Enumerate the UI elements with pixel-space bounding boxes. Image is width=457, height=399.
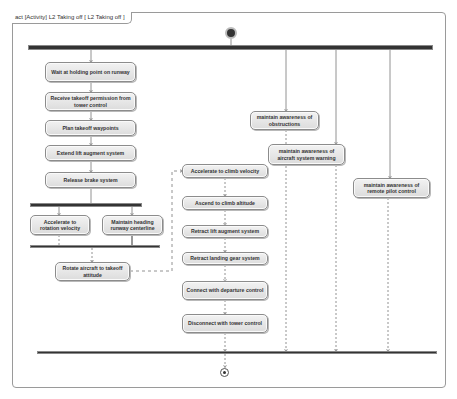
- action-wait-holding[interactable]: Wait at holding point on runway: [45, 62, 136, 82]
- action-accelerate-climb[interactable]: Accelerate to climb velocity: [182, 164, 268, 178]
- action-connect-departure[interactable]: Connect with departure control: [182, 281, 268, 300]
- activity-final-icon[interactable]: [220, 368, 229, 377]
- action-awareness-remote[interactable]: maintain awareness of remote pilot contr…: [353, 178, 430, 198]
- action-retract-lift[interactable]: Retract lift augment system: [182, 225, 268, 238]
- action-awareness-warning[interactable]: maintain awareness of aircraft system wa…: [268, 144, 345, 165]
- action-receive-permission[interactable]: Receive takeoff permission from tower co…: [45, 92, 136, 111]
- action-maintain-heading[interactable]: Maintain heading runway centerline: [102, 215, 163, 235]
- action-accelerate-rotation[interactable]: Accelerate to rotation velocity: [30, 215, 90, 235]
- action-plan-waypoints[interactable]: Plan takeoff waypoints: [45, 120, 136, 136]
- second-fork-bar[interactable]: [30, 203, 142, 207]
- action-ascend-climb[interactable]: Ascend to climb altitude: [182, 196, 268, 210]
- action-awareness-obstructions[interactable]: maintain awareness of obstructions: [250, 111, 319, 130]
- initial-node-icon[interactable]: [225, 27, 237, 39]
- bottom-join-bar[interactable]: [37, 351, 437, 354]
- action-disconnect-tower[interactable]: Disconnect with tower control: [182, 314, 268, 333]
- top-fork-bar[interactable]: [28, 45, 433, 50]
- second-join-bar[interactable]: [30, 245, 160, 248]
- action-retract-gear[interactable]: Retract landing gear system: [182, 252, 268, 265]
- action-rotate-aircraft[interactable]: Rotate aircraft to takeoff attitude: [55, 262, 130, 281]
- action-extend-lift[interactable]: Extend lift augment system: [45, 145, 136, 161]
- action-release-brake[interactable]: Release brake system: [45, 172, 136, 188]
